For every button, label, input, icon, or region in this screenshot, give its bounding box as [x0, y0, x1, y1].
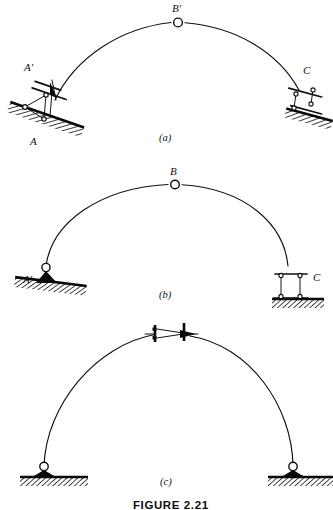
- pin-node-right-b-4: [298, 294, 302, 298]
- jack-wedge-upper-c: [157, 329, 183, 333]
- label-b-right-support: C: [313, 271, 321, 283]
- pin-node-right-b-2: [298, 273, 302, 277]
- pin-node-left-a-1: [23, 105, 28, 110]
- label-a-crown-hinge: B': [172, 2, 182, 14]
- arch-rib-a-right: [185, 23, 299, 90]
- arch-rib-b-right: [182, 185, 288, 266]
- arch-rib-c-right: [190, 336, 293, 466]
- support-right-a: [284, 88, 333, 130]
- pin-node-left-a-3: [42, 117, 46, 121]
- label-a-right-support: C: [303, 64, 311, 76]
- figure-number-label: FIGURE 2.21: [133, 499, 209, 510]
- crown-jack-assembly-c: [145, 323, 198, 342]
- ground-hatch-right-b: [272, 299, 324, 308]
- diagram-c: (c): [20, 323, 333, 488]
- arch-rib-c-left: [44, 335, 155, 467]
- pin-node-right-a-1: [294, 92, 298, 96]
- jack-wedge-lower-c: [157, 334, 183, 338]
- support-right-c: [268, 462, 333, 486]
- pin-support-left-c: [40, 462, 48, 470]
- arch-rib-b-left: [46, 185, 168, 267]
- caption-a: (a): [159, 132, 172, 144]
- diagram-b: A' C B (b): [14, 165, 324, 308]
- crown-hinge-b: [171, 180, 180, 189]
- caption-c: (c): [160, 476, 172, 488]
- bearing-plate-upper-left-a: [35, 81, 61, 90]
- pin-node-right-b-1: [279, 273, 283, 277]
- pin-node-right-b-3: [279, 294, 283, 298]
- jack-bolt-left-lower-c: [153, 336, 157, 339]
- label-b-left-support: A': [22, 273, 33, 285]
- label-a-left-upper: A': [23, 61, 34, 73]
- bearing-plate-top-right-a: [289, 88, 322, 97]
- crown-hinge-a: [174, 18, 183, 27]
- pin-node-right-a-2: [292, 106, 296, 110]
- pin-node-right-a-4: [309, 102, 313, 106]
- support-left-c: [20, 462, 88, 486]
- ground-hatch-left-c: [20, 477, 88, 486]
- caption-b: (b): [159, 289, 172, 301]
- figure-canvas: A' A C B' (a): [0, 0, 333, 510]
- pin-node-left-a-2: [44, 93, 48, 97]
- diagram-a: A' A C B' (a): [7, 2, 333, 147]
- rocker-link-left-outer-a: [25, 95, 46, 107]
- pin-support-right-c: [289, 462, 297, 470]
- pin-support-left-b: [42, 263, 50, 271]
- ground-hatch-right-c: [268, 477, 333, 486]
- figure-arch-supports: A' A C B' (a): [0, 0, 333, 510]
- support-left-a: [7, 80, 84, 137]
- label-a-left-base: A: [29, 135, 37, 147]
- pin-node-right-a-3: [311, 88, 315, 92]
- label-b-crown-hinge: B: [170, 165, 177, 177]
- arch-rib-a: [55, 23, 171, 101]
- bracket-triangle-left-b: [36, 271, 57, 283]
- jack-bolt-left-upper-c: [153, 328, 157, 331]
